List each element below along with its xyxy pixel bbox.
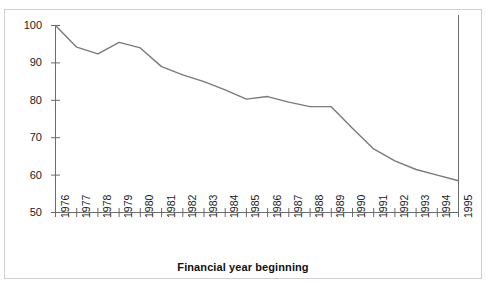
x-tick-label: 1983: [208, 195, 218, 218]
x-tick-label: 1987: [293, 195, 303, 218]
x-tick-label: 1978: [102, 195, 112, 218]
x-tick-label: 1985: [250, 195, 260, 218]
x-tick-label: 1991: [378, 195, 388, 218]
y-tick-label: 90: [16, 57, 42, 68]
y-tick-label: 100: [16, 20, 42, 31]
x-tick-label: 1994: [441, 195, 451, 218]
x-tick-label: 1990: [356, 195, 366, 218]
y-tick-label: 60: [16, 170, 42, 181]
data-series-line: [56, 26, 459, 181]
x-axis-title: Financial year beginning: [0, 261, 486, 273]
x-tick-label: 1988: [314, 195, 324, 218]
x-tick-label: 1993: [420, 195, 430, 218]
line-chart-plot: [0, 0, 486, 284]
y-tick-label: 70: [16, 132, 42, 143]
x-tick-label: 1992: [399, 195, 409, 218]
x-tick-label: 1980: [144, 195, 154, 218]
x-tick-label: 1984: [229, 195, 239, 218]
x-tick-label: 1995: [463, 195, 473, 218]
y-tick-label: 50: [16, 207, 42, 218]
x-tick-label: 1989: [335, 195, 345, 218]
chart-figure: 100 90 80 70 60 50 197619771978197919801…: [0, 0, 486, 284]
x-tick-label: 1982: [187, 195, 197, 218]
x-tick-label: 1981: [166, 195, 176, 218]
x-tick-label: 1979: [123, 195, 133, 218]
x-tick-label: 1976: [60, 195, 70, 218]
y-tick-label: 80: [16, 95, 42, 106]
x-tick-label: 1986: [272, 195, 282, 218]
x-tick-label: 1977: [81, 195, 91, 218]
